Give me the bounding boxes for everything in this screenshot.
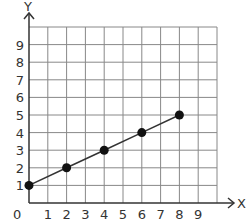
data-point-marker — [100, 146, 109, 155]
data-point-marker — [175, 111, 184, 120]
x-tick-label: 9 — [194, 207, 202, 222]
y-axis-label: Y — [23, 0, 32, 14]
x-tick-label: 4 — [100, 207, 108, 222]
data-point-marker — [25, 181, 34, 190]
y-tick-label: 5 — [16, 108, 24, 123]
origin-label: 0 — [13, 207, 21, 222]
data-point-marker — [137, 128, 146, 137]
coordinate-grid-chart: 123456789123456789 X Y 0 — [0, 0, 249, 224]
y-tick-label: 6 — [16, 90, 24, 105]
x-tick-label: 3 — [81, 207, 89, 222]
x-tick-label: 8 — [175, 207, 183, 222]
x-tick-label: 1 — [44, 207, 52, 222]
grid-lines — [29, 27, 217, 203]
y-tick-label: 2 — [16, 161, 24, 176]
x-tick-label: 2 — [62, 207, 70, 222]
tick-labels: 123456789123456789 — [16, 38, 202, 222]
x-tick-label: 5 — [119, 207, 127, 222]
y-tick-label: 3 — [16, 143, 24, 158]
y-tick-label: 8 — [16, 55, 24, 70]
x-tick-label: 6 — [138, 207, 146, 222]
y-tick-label: 9 — [16, 38, 24, 53]
data-point-marker — [62, 163, 71, 172]
axes — [24, 13, 234, 208]
y-tick-label: 4 — [16, 126, 24, 141]
x-tick-label: 7 — [156, 207, 164, 222]
x-axis-label: X — [237, 196, 246, 211]
y-tick-label: 1 — [16, 178, 24, 193]
y-tick-label: 7 — [16, 73, 24, 88]
